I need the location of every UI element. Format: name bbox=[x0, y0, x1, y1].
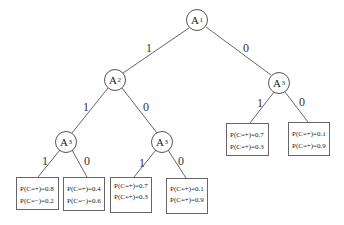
edge-label-a2-a3-mid: 0 bbox=[143, 101, 149, 113]
leaf-box: P(C=+)=0.7 P(C=+)=0.3 bbox=[110, 177, 152, 213]
node-label: A bbox=[60, 136, 68, 148]
edge-label-a3-right-leaf1: 1 bbox=[257, 97, 263, 109]
node-label: A bbox=[109, 74, 117, 86]
node-subscript: 3 bbox=[68, 138, 72, 146]
leaf-prob-line: P(C=+)=0.3 bbox=[114, 192, 149, 203]
leaf-box: P(C=+)=0.7 P(C=+)=0.3 bbox=[226, 123, 269, 156]
leaf-prob-line: P(C=+)=0.9 bbox=[292, 140, 327, 152]
edge-label-root-a2: 1 bbox=[146, 42, 152, 54]
node-subscript: 2 bbox=[117, 76, 121, 84]
node-a1: A1 bbox=[186, 9, 208, 31]
node-a3-mid: A3 bbox=[151, 131, 173, 153]
leaf-prob-line: P(C=+)=0.4 bbox=[67, 183, 102, 195]
edge-label-a3-left-leaf0: 0 bbox=[84, 155, 90, 167]
leaf-box: P(C=+)=0.1 P(C=+)=0.9 bbox=[288, 122, 330, 156]
node-a3-right: A3 bbox=[268, 72, 290, 94]
node-a3-left: A3 bbox=[55, 131, 77, 153]
node-subscript: 1 bbox=[199, 16, 203, 24]
node-subscript: 3 bbox=[164, 138, 168, 146]
edge-label-a3-right-leaf0: 0 bbox=[299, 96, 305, 108]
edge-label-a3-left-leaf1: 1 bbox=[42, 155, 48, 167]
edge-a2-a3-mid bbox=[122, 88, 157, 133]
node-label: A bbox=[191, 14, 199, 26]
edge-a3-mid-leaf1 bbox=[134, 150, 156, 177]
edge-root-a3-right bbox=[206, 27, 271, 75]
edge-label-root-a3-right: 0 bbox=[243, 42, 249, 54]
leaf-prob-line: P(C=+)=0.9 bbox=[170, 195, 205, 206]
leaf-prob-line: P(C=−)=0.6 bbox=[67, 195, 102, 207]
leaf-prob-line: P(C=+)=0.7 bbox=[114, 181, 149, 192]
leaf-box: P(C=+)=0.4 P(C=−)=0.6 bbox=[63, 177, 105, 211]
leaf-prob-line: P(C=+)=0.1 bbox=[292, 128, 327, 140]
edge-label-a3-mid-leaf0: 0 bbox=[178, 155, 184, 167]
node-label: A bbox=[273, 77, 281, 89]
leaf-prob-line: P(C=+)=0.7 bbox=[230, 129, 266, 141]
leaf-prob-line: P(C=+)=0.3 bbox=[230, 141, 266, 153]
leaf-prob-line: P(C=−)=0.2 bbox=[20, 195, 56, 207]
edge-root-a2 bbox=[123, 28, 189, 73]
edge-label-a3-mid-leaf1: 1 bbox=[139, 157, 145, 169]
leaf-box: P(C=+)=0.8 P(C=−)=0.2 bbox=[16, 177, 59, 210]
leaf-prob-line: P(C=+)=0.1 bbox=[170, 184, 205, 195]
leaf-box: P(C=+)=0.1 P(C=+)=0.9 bbox=[166, 178, 208, 214]
node-label: A bbox=[156, 136, 164, 148]
node-a2: A2 bbox=[104, 69, 126, 91]
edge-label-a2-a3-left: 1 bbox=[83, 101, 89, 113]
edge-a2-a3-left bbox=[72, 88, 108, 133]
leaf-prob-line: P(C=+)=0.8 bbox=[20, 183, 56, 195]
node-subscript: 3 bbox=[281, 79, 285, 87]
